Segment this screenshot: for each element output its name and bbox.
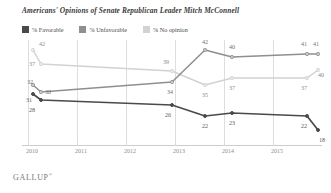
legend-item-no-opinion: % No opinion <box>143 26 188 33</box>
datalabel-no-opinion-6: 40 <box>318 72 324 78</box>
datalabel-favorable-5: 22 <box>301 123 307 129</box>
tick-2015 <box>273 141 274 146</box>
datalabel-no-opinion-0: 42 <box>39 41 45 47</box>
legend-label-no-opinion: % No opinion <box>153 26 188 33</box>
datalabel-no-opinion-3: 35 <box>202 92 208 98</box>
datalabel-no-opinion-5: 37 <box>301 85 307 91</box>
x-axis-line <box>22 145 322 146</box>
tick-2011 <box>77 141 78 146</box>
line-favorable <box>33 94 318 130</box>
legend-swatch-no-opinion <box>143 26 150 33</box>
datalabel-unfavorable-2: 34 <box>167 89 173 95</box>
markers-favorable <box>32 93 320 132</box>
x-axis-label-2013: 2013 <box>173 148 185 154</box>
datalabel-favorable-2: 26 <box>165 112 171 118</box>
gallup-wordmark: GALLUP <box>13 173 49 182</box>
datalabel-unfavorable-6: 41 <box>313 41 319 47</box>
tick-2010 <box>28 141 29 146</box>
chart-container: Americans' Opinions of Senate Republican… <box>0 0 331 193</box>
chart-title: Americans' Opinions of Senate Republican… <box>22 6 322 15</box>
x-axis-label-2011: 2011 <box>75 148 87 154</box>
tick-2013 <box>175 141 176 146</box>
legend-item-unfavorable: % Unfavorable <box>79 26 127 33</box>
datalabel-no-opinion-4: 37 <box>229 85 235 91</box>
x-axis-label-2014: 2014 <box>222 148 234 154</box>
datalabel-favorable-3: 22 <box>202 123 208 129</box>
datalabel-favorable-1: 28 <box>29 107 35 113</box>
datalabel-no-opinion-2: 39 <box>163 59 169 65</box>
x-axis-label-2015: 2015 <box>271 148 283 154</box>
x-axis-label-2010: 2010 <box>26 148 38 154</box>
registered-mark-icon: ® <box>49 172 52 177</box>
markers-no-opinion <box>32 49 320 87</box>
gallup-logo: GALLUP® <box>13 172 52 182</box>
tick-2014 <box>224 141 225 146</box>
line-unfavorable <box>33 50 318 92</box>
datalabel-unfavorable-0: 32 <box>27 79 33 85</box>
legend-item-favorable: % Favorable <box>22 26 63 33</box>
datalabel-no-opinion-1: 37 <box>29 61 35 67</box>
datalabel-unfavorable-3: 42 <box>202 39 208 45</box>
legend-label-favorable: % Favorable <box>32 26 63 33</box>
x-axis-label-2012: 2012 <box>124 148 136 154</box>
datalabel-favorable-6: 18 <box>319 137 325 143</box>
legend-label-unfavorable: % Unfavorable <box>89 26 127 33</box>
datalabel-unfavorable-4: 40 <box>229 44 235 50</box>
datalabel-unfavorable-1: 30 <box>45 89 51 95</box>
legend-swatch-unfavorable <box>79 26 86 33</box>
plot-area: 42 37 39 35 37 37 40 32 30 34 42 40 41 4… <box>22 40 322 145</box>
legend-swatch-favorable <box>22 26 29 33</box>
datalabel-favorable-4: 23 <box>229 120 235 126</box>
datalabel-favorable-0: 31 <box>26 97 32 103</box>
tick-2012 <box>126 141 127 146</box>
chart-legend: % Favorable % Unfavorable % No opinion <box>22 24 204 34</box>
datalabel-unfavorable-5: 41 <box>301 41 307 47</box>
